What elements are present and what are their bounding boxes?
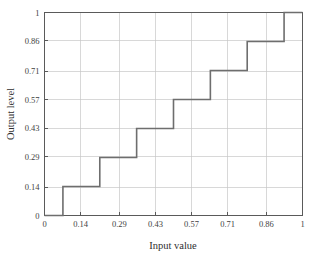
y-tick-label: 1	[35, 8, 39, 18]
x-axis-title: Input value	[149, 240, 197, 251]
y-tick-label: 0.14	[25, 182, 41, 192]
x-tick-label: 0.14	[73, 219, 89, 229]
y-tick-label: 0.86	[25, 36, 40, 46]
x-tick-label: 0.86	[259, 219, 274, 229]
x-tick-label: 0.43	[148, 219, 163, 229]
x-tick-label: 0.57	[184, 219, 199, 229]
y-tick-label: 0.29	[25, 152, 40, 162]
chart-figure: 00.140.290.430.570.710.861 00.140.290.43…	[0, 0, 317, 258]
y-tick-label: 0.57	[25, 95, 40, 105]
x-tick-label: 0.29	[112, 219, 127, 229]
y-tick-label: 0.71	[25, 66, 40, 76]
y-tick-label: 0	[35, 211, 39, 221]
x-tick-label: 1	[300, 219, 304, 229]
x-tick-label: 0	[42, 219, 46, 229]
y-axis-title: Output level	[5, 88, 16, 140]
x-tick-label: 0.71	[220, 219, 235, 229]
quantizer-staircase-chart: 00.140.290.430.570.710.861 00.140.290.43…	[0, 0, 317, 258]
y-tick-label: 0.43	[25, 123, 40, 133]
